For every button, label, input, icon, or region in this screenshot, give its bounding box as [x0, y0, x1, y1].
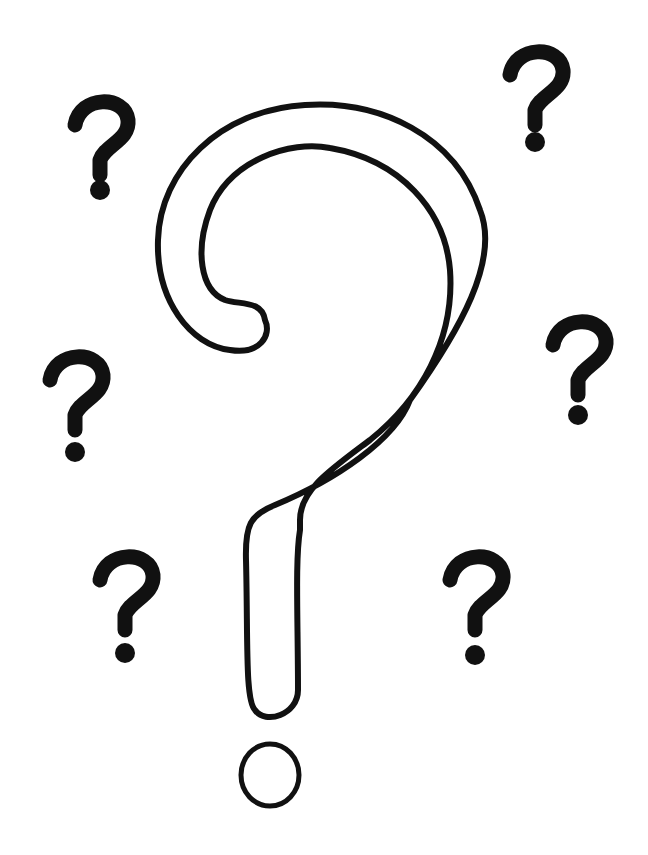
big-dot-icon: [241, 744, 299, 806]
small-question-mark-icon: [450, 557, 503, 665]
small-question-mark-icon: [50, 357, 103, 462]
small-question-marks: [50, 52, 606, 665]
small-question-mark-icon: [510, 52, 563, 152]
small-question-mark-icon: [100, 557, 153, 663]
small-question-mark-icon: [553, 322, 606, 425]
question-mark-illustration: [0, 0, 648, 855]
big-question-mark-icon: [158, 105, 485, 806]
small-question-mark-icon: [75, 102, 128, 200]
